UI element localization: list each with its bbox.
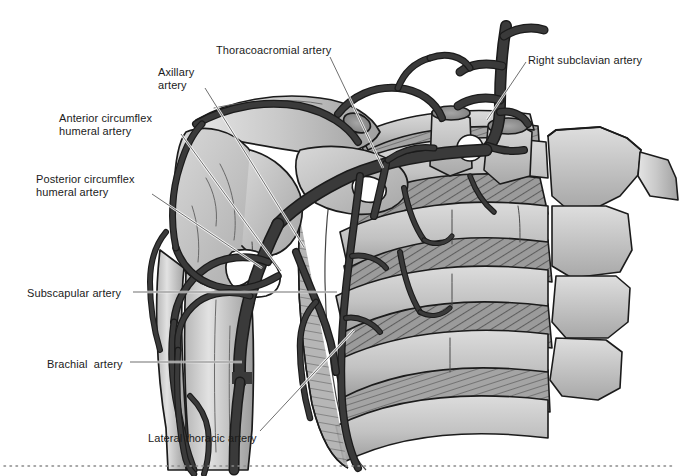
label-lateral-thoracic: Lateral thoracic artery [148, 432, 257, 445]
label-posterior-circumflex: Posterior circumflex humeral artery [36, 173, 135, 199]
label-axillary: Axillary artery [158, 66, 194, 92]
label-brachial: Brachial artery [47, 358, 123, 371]
label-anterior-circumflex: Anterior circumflex humeral artery [59, 112, 152, 138]
label-subscapular: Subscapular artery [27, 287, 121, 300]
label-right-subclavian: Right subclavian artery [528, 54, 642, 67]
label-thoracoacromial: Thoracoacromial artery [216, 44, 331, 57]
anatomy-artwork [0, 0, 679, 476]
illustration-canvas: Thoracoacromial arteryRight subclavian a… [0, 0, 679, 476]
